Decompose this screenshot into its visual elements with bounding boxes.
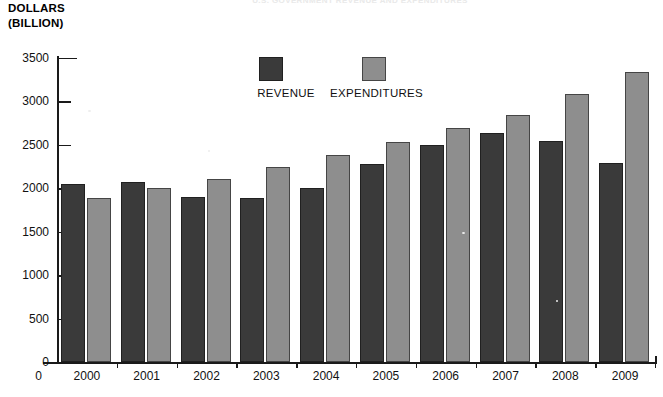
y-axis-tick-label: 500 [0, 313, 49, 325]
bar-expenditures-2000 [87, 198, 111, 362]
bar-expenditures-2008 [565, 94, 589, 362]
x-axis-tick-label: 2005 [356, 370, 416, 383]
y-axis-tick-label: 3000 [0, 95, 49, 107]
plot-area [57, 58, 655, 362]
bar-expenditures-2009 [625, 72, 649, 362]
scan-speckle [208, 150, 210, 152]
x-axis-tick-mark [117, 362, 118, 368]
legend-label-expenditures: EXPENDITURES [330, 87, 420, 99]
y-axis-title-line1: DOLLARS [8, 2, 65, 14]
x-axis-tick-mark [416, 362, 417, 368]
bar-expenditures-2003 [266, 167, 290, 362]
y-axis-tick-label: 1500 [0, 226, 49, 238]
x-axis-tick-mark [356, 362, 357, 368]
y-axis-title-line2: (BILLION) [8, 17, 63, 29]
bar-revenue-2005 [360, 164, 384, 362]
x-axis-tick-label: 2008 [535, 370, 595, 383]
x-axis-tick-label: 2007 [476, 370, 536, 383]
x-axis-tick-mark [296, 362, 297, 368]
legend-swatch-expenditures [362, 57, 386, 81]
bar-revenue-2002 [181, 197, 205, 362]
bar-expenditures-2006 [446, 128, 470, 363]
x-axis-tick-label: 2000 [57, 370, 117, 383]
bar-revenue-2003 [240, 198, 264, 362]
x-axis-tick-label: 2004 [296, 370, 356, 383]
x-axis-tick-mark [177, 362, 178, 368]
x-axis-tick-label: 2006 [416, 370, 476, 383]
bar-expenditures-2007 [506, 115, 530, 362]
x-axis-tick-label: 2009 [595, 370, 655, 383]
legend-swatch-revenue [259, 57, 283, 81]
bar-expenditures-2001 [147, 188, 171, 362]
x-axis-tick-label: 2003 [236, 370, 296, 383]
bar-revenue-2007 [480, 133, 504, 362]
bar-expenditures-2005 [386, 142, 410, 362]
y-axis-tick-label: 3500 [0, 52, 49, 64]
y-axis-tick-label: 2500 [0, 139, 49, 151]
bar-revenue-2000 [61, 184, 85, 362]
bar-expenditures-2004 [326, 155, 350, 362]
bar-revenue-2009 [599, 163, 623, 362]
x-axis-tick-mark [655, 362, 656, 368]
bar-expenditures-2002 [207, 179, 231, 362]
x-axis-tick-mark [476, 362, 477, 368]
x-axis-tick-mark [595, 362, 596, 368]
bar-revenue-2004 [300, 188, 324, 362]
bar-chart: U.S. GOVERNMENT REVENUE AND EXPENDITURES… [0, 0, 663, 397]
x-axis-tick-label: 2002 [177, 370, 237, 383]
legend-label-revenue: REVENUE [250, 87, 322, 99]
chart-title: U.S. GOVERNMENT REVENUE AND EXPENDITURES [160, 0, 560, 6]
bar-revenue-2008 [539, 141, 563, 362]
y-axis-tick-label: 1000 [0, 269, 49, 281]
bar-revenue-2006 [420, 145, 444, 362]
y-axis-tick-label: 0 [0, 356, 49, 368]
scan-speckle [88, 110, 91, 112]
x-axis-line [43, 362, 657, 364]
scan-speckle [462, 232, 465, 234]
x-axis-tick-mark [535, 362, 536, 368]
x-axis-origin-label: 0 [22, 370, 42, 383]
x-axis-tick-mark [236, 362, 237, 368]
x-axis-tick-label: 2001 [117, 370, 177, 383]
bar-revenue-2001 [121, 182, 145, 362]
scan-speckle [556, 300, 558, 302]
y-axis-tick-label: 2000 [0, 182, 49, 194]
